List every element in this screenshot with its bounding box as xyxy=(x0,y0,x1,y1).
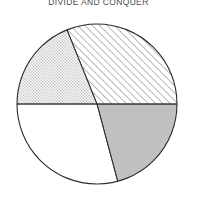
pie-chart-svg xyxy=(0,0,197,204)
pie-chart-figure: DIVIDE AND CONQUER xyxy=(0,0,197,204)
